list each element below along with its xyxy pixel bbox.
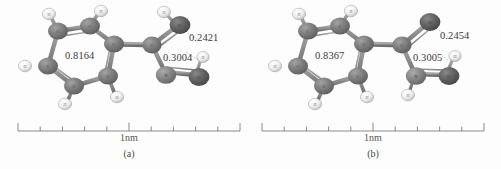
svg-text:C: C bbox=[72, 84, 75, 89]
atom-carbon: C bbox=[288, 57, 308, 74]
svg-text:H: H bbox=[202, 55, 205, 60]
atom-carbon: C bbox=[38, 57, 58, 74]
svg-text:H: H bbox=[274, 64, 277, 69]
atom-hydrogen: H bbox=[268, 60, 281, 72]
upper-distance-label-a: 0.2421 bbox=[189, 32, 218, 43]
scale-bar-b: 1nm (b) bbox=[250, 120, 501, 169]
atom-hydrogen: H bbox=[42, 8, 55, 20]
functional-group-a: C O N O bbox=[142, 16, 209, 86]
atom-nitrogen: N bbox=[156, 66, 176, 84]
atom-carbon: C bbox=[80, 17, 100, 34]
atom-oxygen: O bbox=[170, 16, 191, 34]
svg-text:H: H bbox=[407, 93, 410, 98]
lower-distance-label-b: 0.3005 bbox=[413, 52, 442, 63]
atom-carbon: C bbox=[392, 37, 411, 54]
atom-hydrogen: H bbox=[344, 5, 357, 17]
figure-container: H H H H H bbox=[0, 0, 501, 169]
svg-text:C: C bbox=[150, 43, 153, 48]
atom-carbon: C bbox=[298, 22, 318, 39]
svg-text:H: H bbox=[163, 10, 166, 15]
atom-hydrogen: H bbox=[360, 91, 373, 103]
atom-carbon: C bbox=[64, 77, 84, 94]
atom-hydrogen: H bbox=[197, 52, 209, 63]
panel-caption-b: (b) bbox=[252, 148, 494, 159]
svg-text:C: C bbox=[356, 74, 359, 79]
atom-carbon: C bbox=[314, 77, 334, 94]
svg-text:C: C bbox=[306, 29, 309, 34]
svg-text:C: C bbox=[400, 43, 403, 48]
svg-text:H: H bbox=[24, 64, 27, 69]
svg-text:C: C bbox=[106, 74, 109, 79]
scale-length-label-b: 1nm bbox=[252, 132, 494, 143]
atom-hydrogen: H bbox=[157, 6, 170, 18]
ring-distance-label-a: 0.8164 bbox=[65, 50, 94, 61]
svg-text:C: C bbox=[362, 42, 365, 47]
atom-hydrogen: H bbox=[110, 91, 123, 103]
svg-text:H: H bbox=[64, 102, 67, 107]
atom-oxygen: O bbox=[420, 13, 441, 31]
atom-carbon: C bbox=[354, 35, 374, 52]
atom-oxygen: O bbox=[439, 67, 460, 85]
panel-a: H H H H H bbox=[0, 0, 250, 169]
atom-carbon: C bbox=[348, 67, 368, 84]
svg-text:H: H bbox=[116, 95, 119, 100]
panel-caption-a: (a) bbox=[8, 148, 250, 159]
svg-text:C: C bbox=[338, 24, 341, 29]
scale-bar-a: 1nm (a) bbox=[0, 120, 250, 169]
atom-carbon: C bbox=[330, 17, 350, 34]
svg-text:C: C bbox=[112, 42, 115, 47]
atom-oxygen: O bbox=[189, 68, 210, 86]
svg-text:H: H bbox=[454, 54, 457, 59]
atom-carbon: C bbox=[142, 37, 161, 54]
atom-hydrogen: H bbox=[401, 89, 414, 101]
svg-text:C: C bbox=[56, 29, 59, 34]
atom-hydrogen: H bbox=[292, 8, 305, 20]
svg-text:C: C bbox=[322, 84, 325, 89]
molecule-structure-a: H H H H H bbox=[0, 0, 250, 120]
atom-hydrogen: H bbox=[449, 51, 461, 62]
atom-hydrogen: H bbox=[308, 98, 321, 110]
functional-group-b: C O N O bbox=[392, 13, 459, 85]
svg-text:H: H bbox=[48, 12, 51, 17]
svg-text:H: H bbox=[350, 9, 353, 14]
atom-hydrogen: H bbox=[58, 98, 71, 110]
svg-text:C: C bbox=[296, 64, 299, 69]
panel-b: H H H H H bbox=[250, 0, 501, 169]
atom-carbon: C bbox=[48, 22, 68, 39]
atom-hydrogen: H bbox=[94, 5, 107, 17]
atom-carbon: C bbox=[104, 35, 124, 52]
svg-text:C: C bbox=[46, 64, 49, 69]
atom-hydrogen: H bbox=[18, 60, 31, 72]
scale-length-label-a: 1nm bbox=[8, 132, 250, 143]
svg-text:H: H bbox=[100, 9, 103, 14]
svg-text:H: H bbox=[314, 102, 317, 107]
svg-text:H: H bbox=[366, 95, 369, 100]
lower-distance-label-a: 0.3004 bbox=[163, 52, 192, 63]
svg-text:C: C bbox=[88, 24, 91, 29]
ring-distance-label-b: 0.8367 bbox=[315, 50, 344, 61]
atom-carbon: C bbox=[98, 67, 118, 84]
upper-distance-label-b: 0.2454 bbox=[440, 30, 469, 41]
molecule-structure-b: H H H H H bbox=[250, 0, 501, 120]
atom-nitrogen: N bbox=[406, 67, 426, 85]
svg-text:H: H bbox=[298, 12, 301, 17]
